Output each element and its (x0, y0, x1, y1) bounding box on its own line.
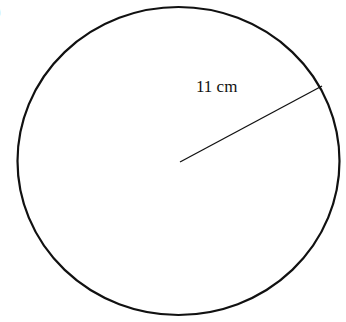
circle (18, 7, 340, 315)
circle-diagram (0, 0, 346, 322)
part-label: ) (0, 0, 1, 23)
radius-line (180, 86, 322, 162)
radius-label: 11 cm (196, 77, 237, 97)
